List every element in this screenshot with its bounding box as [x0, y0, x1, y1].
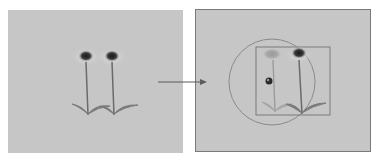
- flower-left-2: [96, 47, 138, 115]
- cursor-icon: [266, 78, 273, 85]
- diagram-canvas: [0, 0, 380, 160]
- transition-arrow-icon: [158, 79, 207, 85]
